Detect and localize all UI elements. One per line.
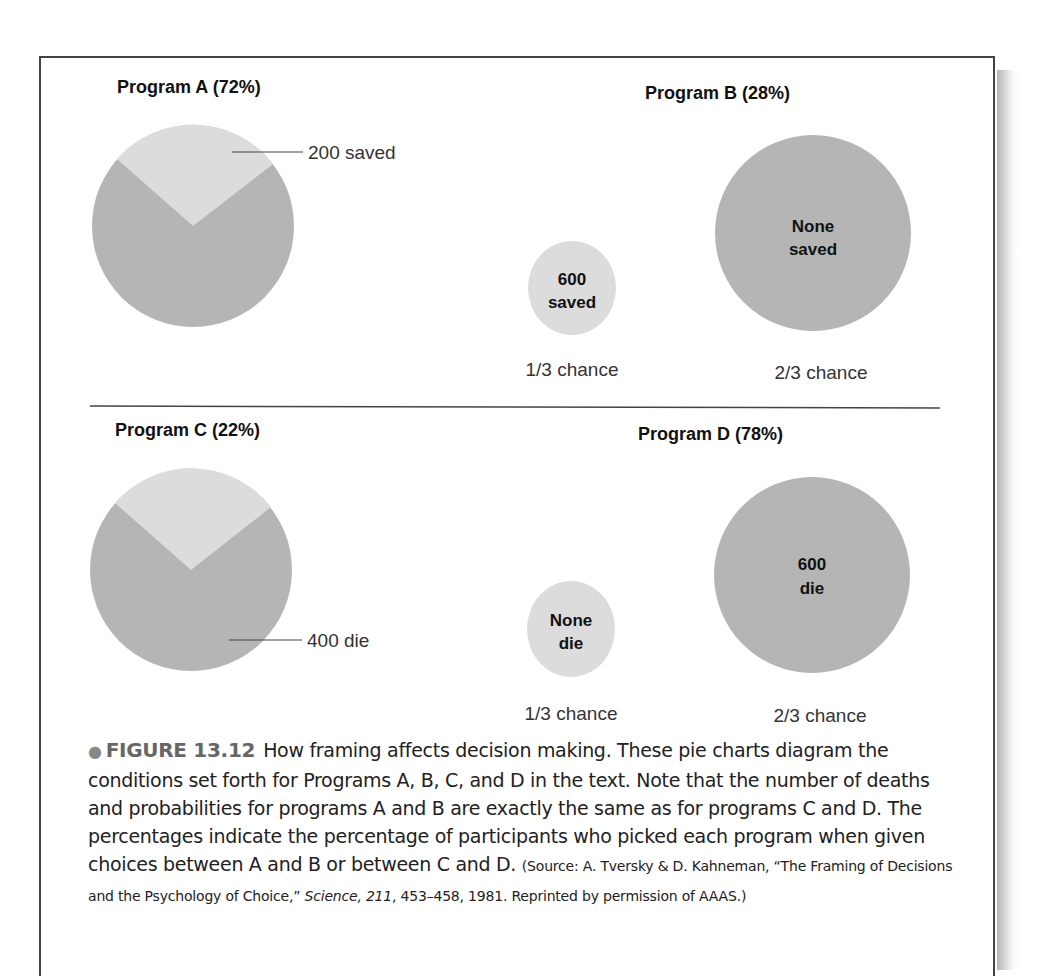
figure-caption: ●FIGURE 13.12How framing affects decisio… bbox=[88, 736, 968, 910]
section-divider bbox=[90, 406, 940, 408]
label-die-big: die bbox=[800, 579, 825, 598]
chance-b-big: 2/3 chance bbox=[775, 362, 868, 383]
source-journal: Science, 211 bbox=[305, 888, 393, 904]
label-die: die bbox=[559, 634, 584, 653]
pie-program-a bbox=[92, 125, 294, 327]
label-saved: saved bbox=[548, 293, 596, 312]
chance-d-small: 1/3 chance bbox=[525, 703, 618, 724]
chance-d-big: 2/3 chance bbox=[774, 705, 867, 726]
program-d-title: Program D (78%) bbox=[638, 424, 783, 444]
circle-d-big bbox=[714, 477, 910, 673]
label-saved-big: saved bbox=[789, 240, 837, 259]
label-600-die: 600 bbox=[798, 555, 826, 574]
label-400-die: 400 die bbox=[307, 630, 369, 651]
program-b-title: Program B (28%) bbox=[645, 83, 790, 103]
source-suffix: , 453–458, 1981. Reprinted by permission… bbox=[392, 888, 746, 904]
label-200-saved: 200 saved bbox=[308, 142, 396, 163]
figure-number: FIGURE 13.12 bbox=[106, 738, 255, 762]
bullet-icon: ● bbox=[88, 742, 102, 761]
label-none-die: None bbox=[550, 611, 593, 630]
label-none: None bbox=[792, 217, 835, 236]
chance-b-small: 1/3 chance bbox=[526, 359, 619, 380]
program-a-title: Program A (72%) bbox=[117, 77, 261, 97]
program-c-title: Program C (22%) bbox=[115, 420, 260, 440]
label-600: 600 bbox=[558, 270, 586, 289]
